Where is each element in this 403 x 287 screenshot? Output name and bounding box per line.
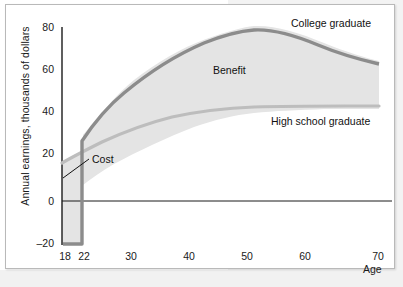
x-tick-70: 70	[365, 250, 391, 262]
highschool-graduate-label: High school graduate	[271, 115, 370, 127]
page-backdrop-bottom	[0, 270, 403, 287]
y-tick-60: 60	[18, 63, 54, 75]
y-tick-minus20: –20	[14, 237, 54, 249]
chart-card: Annual earnings, thousands of dollars 80…	[5, 4, 395, 269]
x-tick-40: 40	[176, 250, 202, 262]
chart-plot-area: Annual earnings, thousands of dollars 80…	[6, 5, 396, 270]
y-tick-20: 20	[18, 147, 54, 159]
cost-region-fill	[62, 150, 83, 245]
benefit-annotation: Benefit	[213, 64, 246, 76]
x-tick-22: 22	[71, 250, 97, 262]
x-tick-30: 30	[118, 250, 144, 262]
chart-svg	[6, 5, 396, 270]
chart-page: Annual earnings, thousands of dollars 80…	[0, 0, 403, 287]
y-tick-80: 80	[18, 21, 54, 33]
x-axis-title: Age	[363, 263, 382, 275]
college-graduate-label: College graduate	[291, 17, 371, 29]
y-tick-40: 40	[18, 105, 54, 117]
x-tick-50: 50	[234, 250, 260, 262]
y-tick-0: 0	[18, 195, 54, 207]
cost-annotation: Cost	[92, 153, 114, 165]
x-tick-60: 60	[292, 250, 318, 262]
